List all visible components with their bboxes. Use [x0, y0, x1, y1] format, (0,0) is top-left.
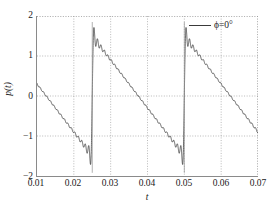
plot-canvas: [37, 16, 258, 176]
y-tick-label: 2: [28, 11, 33, 21]
x-tick-label: 0.03: [102, 179, 119, 189]
x-axis-tick-labels: 0.010.020.030.040.050.060.07: [36, 179, 258, 193]
gridlines: [37, 16, 258, 176]
x-tick-label: 0.01: [28, 179, 45, 189]
legend-line-swatch: [189, 25, 211, 26]
legend-entry-label: ϕ=0°: [214, 21, 233, 31]
legend: ϕ=0°: [189, 18, 255, 33]
x-tick-label: 0.05: [176, 179, 193, 189]
x-tick-label: 0.07: [250, 179, 267, 189]
y-axis-title-text: p(t): [3, 82, 13, 96]
y-tick-label: −1: [23, 132, 33, 142]
x-tick-label: 0.02: [65, 179, 82, 189]
x-axis-title: t: [36, 192, 258, 202]
y-tick-label: 0: [28, 92, 33, 102]
plot-area: [36, 16, 258, 177]
x-axis-title-text: t: [146, 192, 149, 202]
y-axis-title: p(t): [3, 67, 13, 111]
x-tick-label: 0.06: [213, 179, 230, 189]
x-tick-label: 0.04: [139, 179, 156, 189]
sawtooth-waveform-figure: 210−1−2 0.010.020.030.040.050.060.07 t p…: [0, 0, 271, 214]
y-tick-label: 1: [28, 52, 33, 62]
